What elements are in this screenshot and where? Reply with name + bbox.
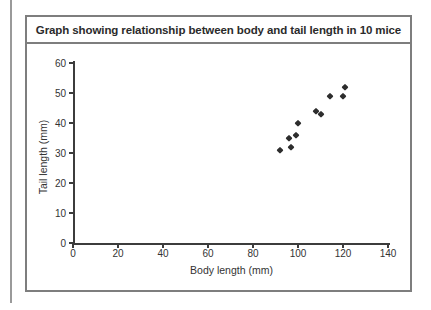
page: { "page": { "background": "#ffffff", "ed… [0, 0, 431, 310]
x-tick-label: 40 [148, 248, 178, 259]
page-edge-line [10, 0, 12, 303]
data-point [317, 111, 323, 117]
x-tick-label: 0 [58, 248, 88, 259]
x-tick-label: 120 [328, 248, 358, 259]
y-tick-label: 20 [44, 178, 66, 189]
chart-title: Graph showing relationship between body … [36, 24, 401, 36]
y-tick [69, 122, 73, 124]
y-tick-label: 10 [44, 208, 66, 219]
y-tick [69, 62, 73, 64]
y-tick-label: 0 [44, 238, 66, 249]
x-tick-label: 140 [373, 248, 403, 259]
data-point [288, 144, 294, 150]
chart-area: Body length (mm) Tail length (mm) 020406… [27, 44, 410, 290]
data-point [326, 93, 332, 99]
x-axis-label: Body length (mm) [73, 264, 390, 276]
y-tick-label: 40 [44, 118, 66, 129]
x-tick-label: 60 [193, 248, 223, 259]
y-tick [69, 182, 73, 184]
y-axis-line [73, 61, 75, 243]
chart-title-bar: Graph showing relationship between body … [27, 17, 410, 44]
data-point [295, 120, 301, 126]
data-point [342, 84, 348, 90]
data-point [277, 147, 283, 153]
data-point [340, 93, 346, 99]
y-tick-label: 50 [44, 88, 66, 99]
y-tick [69, 212, 73, 214]
x-tick-label: 100 [283, 248, 313, 259]
data-point [293, 132, 299, 138]
x-tick-label: 20 [103, 248, 133, 259]
data-point [286, 135, 292, 141]
y-tick-label: 60 [44, 58, 66, 69]
figure-box: Graph showing relationship between body … [25, 15, 412, 292]
y-tick [69, 242, 73, 244]
x-tick-label: 80 [238, 248, 268, 259]
y-tick-label: 30 [44, 148, 66, 159]
y-tick [69, 92, 73, 94]
y-tick [69, 152, 73, 154]
